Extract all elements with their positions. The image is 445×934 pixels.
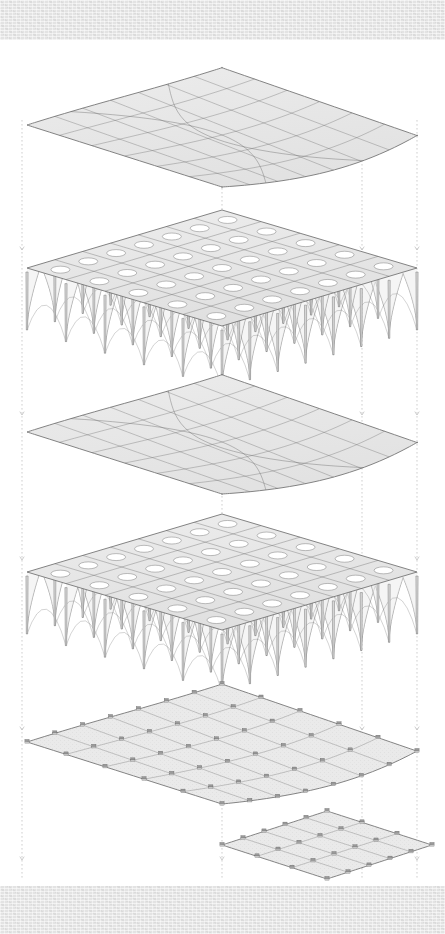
footing-pad-base xyxy=(264,776,268,778)
vault-pier-column xyxy=(304,609,306,667)
footing-pad-base xyxy=(409,851,413,853)
vault-oculus-opening xyxy=(51,570,70,577)
vault-oculus-opening xyxy=(318,279,337,286)
vault-oculus-opening xyxy=(374,567,393,574)
footing-pad-base xyxy=(276,849,280,851)
footing-pad-base xyxy=(348,750,352,752)
footing-pad-base xyxy=(241,838,245,840)
vault-oculus-opening xyxy=(257,532,276,539)
vault-oculus-opening xyxy=(218,520,237,527)
footing-pad-base xyxy=(131,760,135,762)
vault-pier-column xyxy=(249,322,251,380)
vault-cross-rib xyxy=(66,317,105,354)
footing-pad-base xyxy=(374,840,378,842)
footing-pad-base xyxy=(255,856,259,858)
footing-pad-base xyxy=(253,754,257,756)
vault-pier-column xyxy=(26,272,28,330)
vault-oculus-opening xyxy=(235,304,254,311)
footing-pad-base xyxy=(103,766,107,768)
vault-oculus-opening xyxy=(291,288,310,295)
vault-oculus-opening xyxy=(162,233,181,240)
vault-pier-column xyxy=(416,576,418,634)
vault-pier-column xyxy=(104,295,106,353)
vault-oculus-opening xyxy=(90,582,109,589)
footing-pad-base xyxy=(353,847,357,849)
footing-pad-base xyxy=(283,824,287,826)
footing-pad-base xyxy=(64,754,68,756)
footing-pad-base xyxy=(325,879,329,881)
footing-pad-base xyxy=(25,742,29,744)
vault-oculus-opening xyxy=(268,248,287,255)
vault-cross-rib xyxy=(172,332,211,369)
footing-pad-base xyxy=(181,791,185,793)
vault-cross-rib xyxy=(211,343,250,380)
vault-oculus-opening xyxy=(207,617,226,624)
vault-oculus-opening xyxy=(79,562,98,569)
vault-cross-rib xyxy=(105,328,144,365)
vault-oculus-opening xyxy=(146,565,165,572)
footing-pad-base xyxy=(281,745,285,747)
footing-pad-base xyxy=(209,787,213,789)
footing-pad-base xyxy=(388,858,392,860)
footing-pad-base xyxy=(198,768,202,770)
vault-cross-rib xyxy=(27,609,66,646)
footing-pad-base xyxy=(309,735,313,737)
footing-pad-base xyxy=(298,710,302,712)
exploded-axonometric-drawing xyxy=(0,0,445,934)
vault-oculus-opening xyxy=(224,284,243,291)
vault-oculus-opening xyxy=(174,253,193,260)
footing-pad-base xyxy=(318,835,322,837)
footing-pad-base xyxy=(276,796,280,798)
vault-pier-column xyxy=(182,622,184,680)
footing-pad-base xyxy=(220,845,224,847)
vault-pier-column xyxy=(65,588,67,646)
footing-pad-base xyxy=(175,724,179,726)
vault-pier-column xyxy=(143,307,145,365)
vault-oculus-opening xyxy=(129,289,148,296)
vault-oculus-opening xyxy=(118,573,137,580)
vault-oculus-opening xyxy=(252,276,271,283)
vault-pier-column xyxy=(104,599,106,657)
footing-pad-base xyxy=(203,716,207,718)
footing-pad-base xyxy=(304,817,308,819)
footing-pad-base xyxy=(376,737,380,739)
footing-pad-base xyxy=(242,730,246,732)
vault-pier-column xyxy=(277,313,279,371)
footing-pad-base xyxy=(311,860,315,862)
vault-oculus-opening xyxy=(162,537,181,544)
footing-pad-base xyxy=(220,684,224,686)
footing-pad-base xyxy=(339,829,343,831)
vault-pier-column xyxy=(388,280,390,338)
vault-oculus-opening xyxy=(229,236,248,243)
vault-pier-column xyxy=(26,576,28,634)
footing-pad-base xyxy=(360,822,364,824)
vault-oculus-opening xyxy=(346,575,365,582)
footing-pad-base xyxy=(147,731,151,733)
vault-oculus-opening xyxy=(257,228,276,235)
footing-pad-base xyxy=(337,724,341,726)
vault-oculus-opening xyxy=(335,251,354,258)
vault-cross-rib xyxy=(144,644,183,681)
vault-oculus-opening xyxy=(346,271,365,278)
vault-cross-rib xyxy=(133,624,172,661)
slab-surface xyxy=(222,811,433,879)
vault-oculus-opening xyxy=(318,583,337,590)
vault-oculus-opening xyxy=(374,263,393,270)
vault-cross-rib xyxy=(94,308,133,345)
vault-oculus-opening xyxy=(157,281,176,288)
footing-pad-base xyxy=(259,697,263,699)
vault-oculus-opening xyxy=(307,260,326,267)
footing-pad-base xyxy=(290,867,294,869)
footing-pad-base xyxy=(192,692,196,694)
vault-oculus-opening xyxy=(79,258,98,265)
vault-cross-rib xyxy=(105,632,144,669)
vault-cross-rib xyxy=(172,636,211,673)
vault-oculus-opening xyxy=(291,592,310,599)
structure-layer-group xyxy=(25,67,434,880)
footing-pad-base xyxy=(270,721,274,723)
footing-pad-base xyxy=(359,775,363,777)
footing-pad-base xyxy=(186,746,190,748)
vault-oculus-opening xyxy=(185,273,204,280)
vault-cross-rib xyxy=(133,320,172,357)
layer-floor-shell xyxy=(27,374,418,494)
